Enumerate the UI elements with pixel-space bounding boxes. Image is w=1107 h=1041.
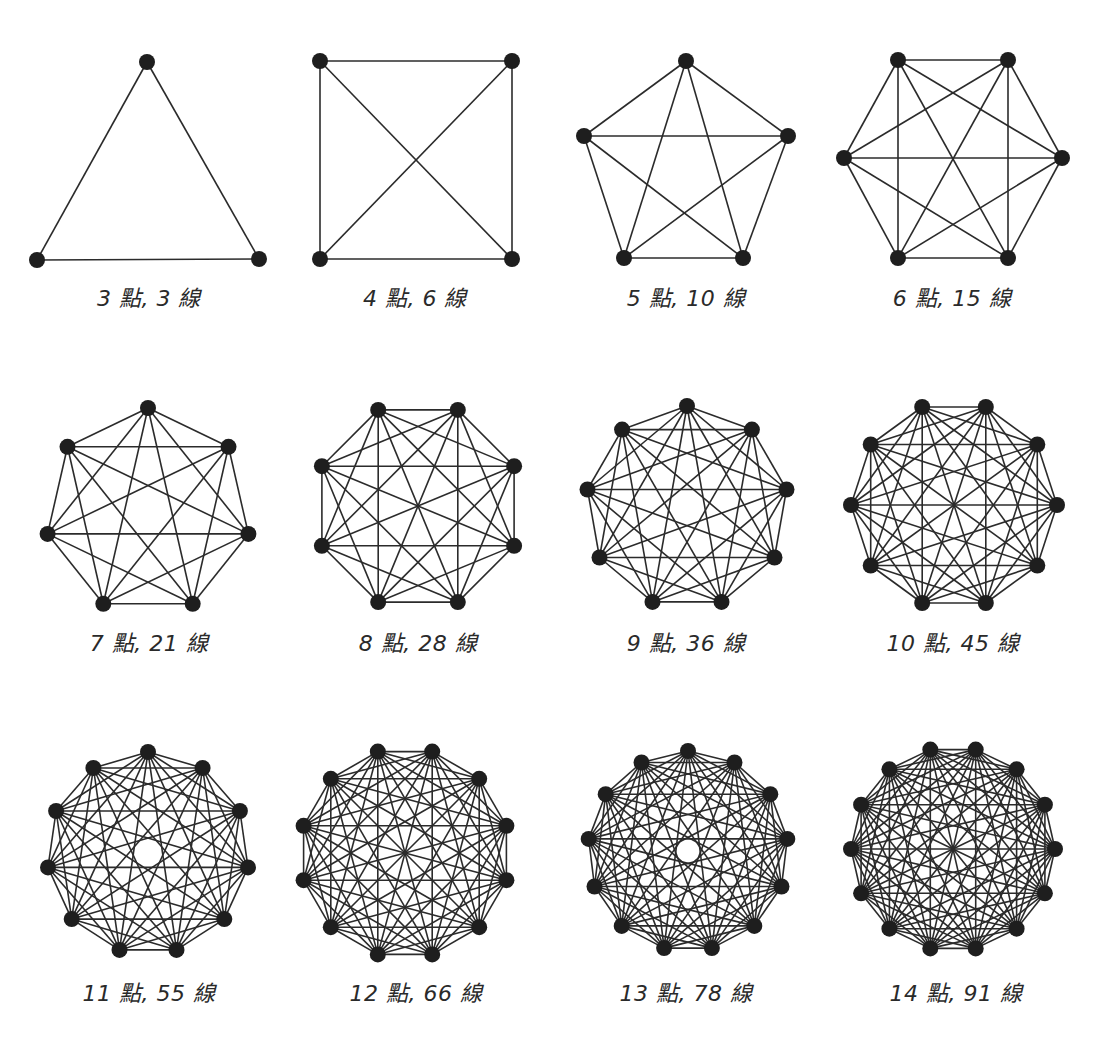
edge [743,136,788,258]
vertex-dot [645,594,661,610]
vertex-dot [1009,921,1025,937]
graph-caption: 8 點, 28 線 [359,625,477,657]
edges [844,60,1062,258]
vertex-dot [471,919,487,935]
vertex-dot [735,250,751,266]
vertex-dot [450,402,466,418]
edge [48,447,229,534]
edge [147,62,259,259]
edges [320,61,512,259]
vertex-dot [424,744,440,760]
vertex-dot [746,918,762,934]
vertex-dot [95,596,111,612]
edge [986,566,1038,604]
edges [37,62,259,260]
vertex-dot [727,755,743,771]
edge [686,61,743,258]
vertex-dot [614,422,630,438]
edge [322,410,458,546]
vertex-dot [1000,250,1016,266]
edge [624,136,788,258]
edge [851,505,1037,566]
vertex-dot [370,402,386,418]
vertex-dot [890,52,906,68]
edge [56,811,248,867]
edge [1037,445,1057,506]
graph-caption: 11 點, 55 線 [83,975,216,1007]
edge [687,406,752,430]
vertex-dot [592,550,608,566]
vertex-dot [1054,150,1070,166]
vertex-dot [881,761,897,777]
edge [871,445,923,604]
edge [304,826,378,955]
edge [622,406,687,430]
graph-caption: 6 點, 15 線 [893,280,1011,312]
vertex-dot [1000,52,1016,68]
vertices [29,54,267,268]
vertex-dot [1049,497,1065,513]
vertex-dot [296,818,312,834]
edge [148,408,229,447]
edge [103,447,228,604]
graph-caption: 4 點, 6 線 [363,280,467,312]
edge [898,158,1062,258]
vertex-dot [251,251,267,267]
graph-caption: 5 點, 10 線 [627,280,745,312]
vertex-dot [587,879,603,895]
vertex-dot [767,550,783,566]
edge [322,410,378,466]
vertex-dot [323,771,339,787]
graph-caption: 9 點, 36 線 [627,625,745,657]
edges [589,751,788,948]
edge [378,466,514,602]
edge [844,158,898,258]
complete-graph-k7 [40,400,257,612]
edge [148,752,203,768]
vertex-dot [140,744,156,760]
complete-graph-k4 [312,53,520,267]
edge [922,566,1037,604]
edge [1008,60,1062,158]
edge [37,259,259,260]
complete-graph-k14 [843,742,1063,957]
vertex-dot [656,940,672,956]
edge [844,60,898,158]
edge [871,407,986,445]
edges [851,407,1057,603]
vertex-dot [1029,558,1045,574]
edge [378,410,514,546]
edge [458,546,514,602]
vertex-dot [323,919,339,935]
complete-graphs-canvas [0,0,1107,1041]
edge [851,445,1037,506]
vertex-dot [1029,437,1045,453]
complete-graph-k9 [580,398,795,610]
edge [148,408,193,604]
vertex-dot [843,497,859,513]
vertex-dot [779,482,795,498]
vertex-dot [296,872,312,888]
vertex-dot [914,595,930,611]
edge [624,61,686,258]
vertex-dot [314,458,330,474]
vertex-dot [139,54,155,70]
vertex-dot [240,859,256,875]
edges [48,408,249,604]
vertex-dot [680,743,696,759]
vertex-dot [762,786,778,802]
vertex-dot [195,760,211,776]
vertex-dot [370,744,386,760]
edge [871,407,923,445]
vertex-dot [29,252,45,268]
vertex-dot [1047,841,1063,857]
edge [72,768,203,919]
vertex-dot [863,558,879,574]
vertex-dot [1037,797,1053,813]
vertex-dot [424,946,440,962]
vertex-dot [714,594,730,610]
complete-graph-k5 [576,53,796,266]
edge [48,534,193,604]
vertex-dot [504,53,520,69]
edge [68,408,149,447]
